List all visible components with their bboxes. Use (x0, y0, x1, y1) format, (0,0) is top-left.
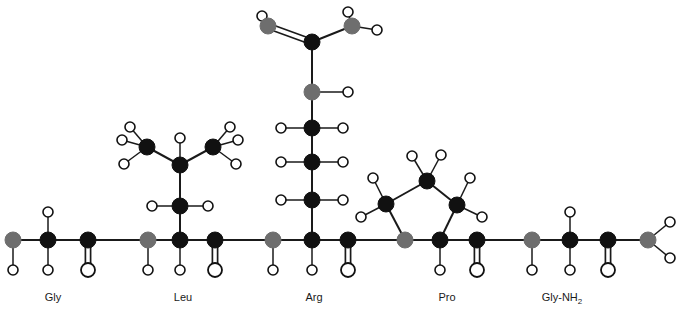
pro-alpha-carbon (432, 232, 448, 248)
label-arg: Arg (305, 291, 322, 303)
bond-layer (13, 24, 648, 270)
label-leu: Leu (174, 291, 192, 303)
pro-beta-carbon (449, 197, 465, 213)
arg-beta-carbon (304, 192, 320, 208)
molecule-diagram: GlyLeuArgProGly-NH2 (0, 0, 679, 313)
atom-layer (5, 18, 656, 277)
pro-gamma-carbon (419, 173, 435, 189)
hydrogen-arg-gamma-right (338, 157, 348, 167)
leu-beta-carbon (172, 198, 188, 214)
hydrogen-c-terminal-a (665, 217, 675, 227)
gly-carbonyl-carbon (80, 232, 96, 248)
hydrogen-n-terminal (8, 265, 18, 275)
leu-carbonyl-carbon (207, 232, 223, 248)
hydrogen-arg-nh2-b (372, 25, 382, 35)
hydrogen-pro-alpha (435, 265, 445, 275)
hydrogen-leu-beta-left (147, 201, 157, 211)
hydrogen-leu-amide (143, 265, 153, 275)
hydrogen-leu-delta2-b (233, 135, 243, 145)
arg-carbonyl-carbon (340, 232, 356, 248)
leu-delta1-methyl-carbon (139, 139, 155, 155)
arg-delta-carbon (304, 120, 320, 136)
arg-epsilon-nitrogen (304, 84, 320, 100)
gly2-carbonyl-carbon (600, 232, 616, 248)
hydrogen-arg-epsilon (343, 87, 353, 97)
hydrogen-leu-gamma (175, 133, 185, 143)
gly2-alpha-carbon (562, 232, 578, 248)
hydrogen-leu-delta1-a (125, 122, 135, 132)
hydrogen-leu-alpha (175, 265, 185, 275)
gly-alpha-carbon (40, 232, 56, 248)
arg-nh1-nitrogen (260, 18, 276, 34)
hydrogen-gly-alpha-up (43, 207, 53, 217)
hydrogen-arg-beta-right (338, 195, 348, 205)
hydrogen-arg-alpha (307, 265, 317, 275)
label-gly: Gly (45, 291, 62, 303)
hydrogen-leu-delta1-c (119, 159, 129, 169)
hydrogen-bond-layer (13, 12, 670, 270)
hydrogen-arg-nh2-a (343, 7, 353, 17)
pro-carbonyl-oxygen (470, 263, 484, 277)
hydrogen-pro-beta-b (477, 212, 487, 222)
leu-amide-nitrogen (140, 232, 156, 248)
hydrogen-pro-beta-a (465, 173, 475, 183)
pro-delta-carbon (378, 196, 394, 212)
c-terminal-amide-nitrogen (640, 232, 656, 248)
hydrogen-arg-delta-right (338, 123, 348, 133)
molecule-figure: GlyLeuArgProGly-NH2 (0, 0, 679, 313)
pro-ring-nitrogen (397, 232, 413, 248)
label-gly-nh2: Gly-NH2 (542, 291, 583, 306)
hydrogen-pro-delta-b (356, 212, 366, 222)
n-terminal-nitrogen (5, 232, 21, 248)
hydrogen-gly-alpha-down (43, 265, 53, 275)
gly-carbonyl-oxygen (81, 263, 95, 277)
pro-carbonyl-carbon (469, 232, 485, 248)
hydrogen-pro-gamma-b (436, 150, 446, 160)
hydrogen-leu-delta2-a (225, 122, 235, 132)
arg-amide-nitrogen (265, 232, 281, 248)
hydrogen-arg-gamma-left (276, 157, 286, 167)
hydrogen-arg-amide (268, 265, 278, 275)
hydrogen-gly2-alpha-down (565, 265, 575, 275)
gly2-amide-nitrogen (524, 232, 540, 248)
hydrogen-arg-delta-left (276, 123, 286, 133)
arg-carbonyl-oxygen (341, 263, 355, 277)
leu-gamma-carbon (172, 157, 188, 173)
hydrogen-c-terminal-b (665, 253, 675, 263)
hydrogen-gly2-alpha-up (565, 207, 575, 217)
arg-nh2-nitrogen (344, 18, 360, 34)
hydrogen-leu-delta2-c (231, 159, 241, 169)
hydrogen-pro-delta-a (368, 173, 378, 183)
label-pro: Pro (438, 291, 455, 303)
leu-carbonyl-oxygen (208, 263, 222, 277)
hydrogen-leu-beta-right (203, 201, 213, 211)
hydrogen-arg-beta-left (276, 195, 286, 205)
arg-zeta-guanidinium-carbon (304, 34, 320, 50)
hydrogen-leu-delta1-b (117, 135, 127, 145)
leu-alpha-carbon (172, 232, 188, 248)
gly2-carbonyl-oxygen (601, 263, 615, 277)
arg-alpha-carbon (304, 232, 320, 248)
residue-label-layer: GlyLeuArgProGly-NH2 (45, 291, 583, 306)
hydrogen-gly2-amide (527, 265, 537, 275)
hydrogen-pro-gamma-a (407, 151, 417, 161)
leu-delta2-methyl-carbon (205, 139, 221, 155)
arg-gamma-carbon (304, 154, 320, 170)
